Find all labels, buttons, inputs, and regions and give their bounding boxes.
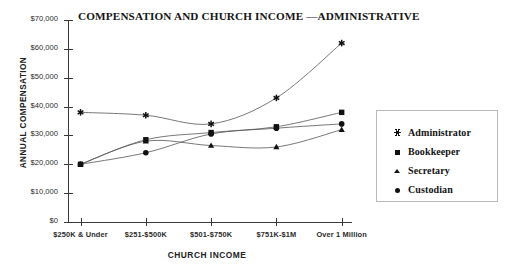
legend: AdministratorBookkeeperSecretaryCustodia… — [376, 110, 498, 202]
legend-label: Custodian — [408, 184, 453, 195]
y-tick-label: $60,000 — [31, 43, 58, 52]
y-tick-label: $0 — [50, 216, 58, 225]
triangle-marker — [339, 127, 345, 132]
plot-area: $0$10,000$20,000$30,000$40,000$50,000$60… — [68, 20, 352, 222]
star-marker — [339, 40, 345, 47]
legend-label: Secretary — [408, 165, 450, 176]
circle-icon — [393, 185, 402, 194]
x-axis-line — [68, 222, 352, 223]
square-marker — [339, 110, 344, 115]
x-tick-label: Over 1 Million — [299, 230, 385, 239]
circle-marker — [143, 150, 149, 156]
series-line-bookkeeper — [81, 112, 342, 164]
circle-marker — [208, 131, 214, 137]
y-tick: $0 — [64, 222, 73, 223]
legend-label: Administrator — [408, 127, 471, 138]
star-icon — [393, 128, 402, 137]
y-axis-title: ANNUAL COMPENSATION — [19, 38, 28, 188]
legend-item-custodian[interactable]: Custodian — [393, 184, 453, 195]
star-marker — [274, 95, 280, 102]
y-tick-label: $10,000 — [31, 187, 58, 196]
chart-figure: COMPENSATION AND CHURCH INCOME —ADMINIST… — [0, 0, 506, 269]
circle-marker — [274, 125, 280, 131]
series-line-administrator — [81, 43, 342, 124]
y-tick-label: $20,000 — [31, 158, 58, 167]
legend-item-administrator[interactable]: Administrator — [393, 127, 471, 138]
x-axis-title: CHURCH INCOME — [62, 250, 352, 260]
legend-item-bookkeeper[interactable]: Bookkeeper — [393, 146, 460, 157]
circle-marker — [339, 121, 345, 127]
square-icon — [393, 147, 402, 156]
circle-marker — [78, 161, 84, 167]
series-layer — [68, 20, 352, 222]
y-tick-label: $40,000 — [31, 101, 58, 110]
legend-item-secretary[interactable]: Secretary — [393, 165, 450, 176]
y-tick-label: $50,000 — [31, 72, 58, 81]
triangle-icon — [393, 166, 402, 175]
y-tick-label: $70,000 — [31, 14, 58, 23]
y-tick-label: $30,000 — [31, 129, 58, 138]
legend-label: Bookkeeper — [408, 146, 460, 157]
